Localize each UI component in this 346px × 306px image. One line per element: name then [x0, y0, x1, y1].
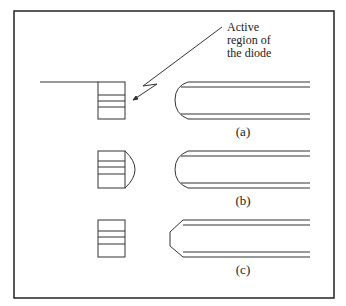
- annotation-line-3: the diode: [227, 47, 271, 60]
- diode-chip: [98, 220, 125, 257]
- caption-b: (b): [235, 193, 250, 209]
- figure-frame: [14, 11, 334, 298]
- annotation-label: Active region of the diode: [227, 21, 271, 60]
- caption-c: (c): [236, 262, 250, 278]
- diode-lens: [125, 151, 135, 188]
- caption-a: (a): [236, 124, 250, 140]
- diagram-canvas: [0, 0, 346, 306]
- fiber-cladding: [175, 82, 310, 119]
- diode-chip: [98, 151, 125, 188]
- fiber-cladding: [170, 220, 310, 257]
- fiber-cladding: [175, 151, 310, 188]
- panel-c: [98, 220, 310, 257]
- panel-b: [98, 151, 310, 188]
